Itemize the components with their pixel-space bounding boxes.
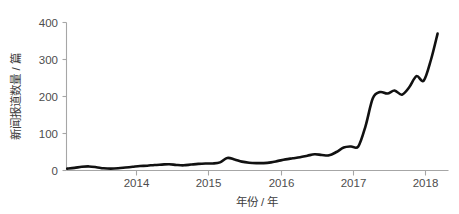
y-axis: 400 300 200 100 0 新闻报道数量 / 篇: [9, 17, 67, 177]
y-tick-label-200: 200: [39, 91, 58, 103]
x-axis-ticks: [137, 171, 426, 176]
x-tick-label-2015: 2015: [196, 177, 222, 189]
y-tick-label-100: 100: [39, 128, 58, 140]
data-series-line: [67, 34, 437, 169]
y-tick-label-0: 0: [52, 165, 58, 177]
chart-container: 400 300 200 100 0 新闻报道数量 / 篇 2014 2015 2…: [0, 0, 459, 214]
y-tick-label-400: 400: [39, 17, 58, 29]
y-axis-title: 新闻报道数量 / 篇: [9, 53, 22, 140]
x-tick-label-2014: 2014: [124, 177, 150, 189]
x-tick-label-2017: 2017: [341, 177, 367, 189]
y-tick-label-300: 300: [39, 54, 58, 66]
x-axis-title: 年份 / 年: [236, 195, 279, 208]
x-axis: 2014 2015 2016 2017 2018 年份 / 年: [67, 171, 449, 209]
line-chart: 400 300 200 100 0 新闻报道数量 / 篇 2014 2015 2…: [0, 0, 459, 214]
x-tick-label-2016: 2016: [269, 177, 295, 189]
x-tick-label-2018: 2018: [413, 177, 439, 189]
y-axis-ticks: [63, 23, 67, 171]
